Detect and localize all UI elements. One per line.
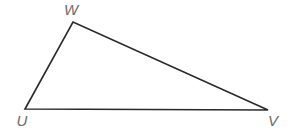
- vertex-label-v: V: [268, 112, 280, 129]
- triangle-svg: W U V: [0, 0, 296, 130]
- vertex-label-u: U: [17, 112, 28, 129]
- triangle-uwv: [25, 22, 268, 110]
- triangle-diagram: W U V: [0, 0, 296, 130]
- vertex-label-w: W: [64, 1, 80, 18]
